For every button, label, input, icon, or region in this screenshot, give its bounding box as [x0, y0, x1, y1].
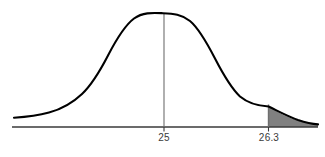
x-axis-tick-label-cutoff: 26.3	[259, 132, 279, 143]
x-axis-tick-label-mean: 25	[158, 132, 170, 143]
bell-curve-path	[14, 13, 318, 124]
normal-distribution-chart: 25 26.3	[0, 0, 325, 157]
